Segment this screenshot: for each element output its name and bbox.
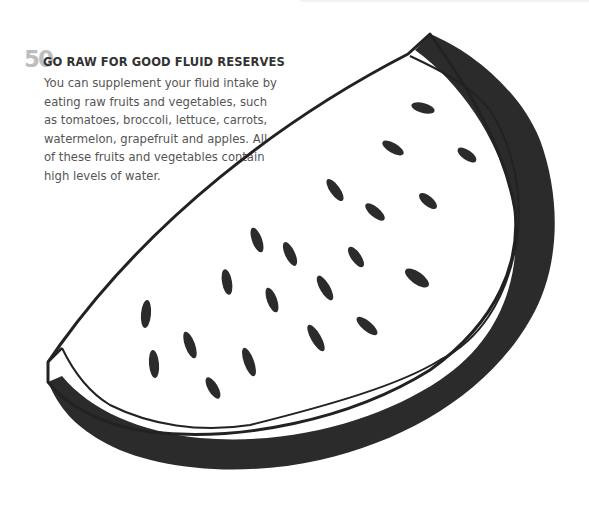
seed (280, 240, 300, 268)
seed (455, 145, 479, 166)
seed (354, 314, 380, 338)
seed (304, 323, 328, 354)
seed (239, 346, 259, 378)
watermelon-illustration (0, 0, 589, 515)
watermelon-flesh-outline (62, 56, 519, 428)
seed (410, 100, 436, 116)
seed (181, 330, 200, 360)
seed (148, 350, 160, 379)
seed (263, 286, 281, 314)
watermelon-outer-outline (48, 34, 516, 434)
seed (345, 244, 367, 269)
seed (140, 300, 152, 329)
watermelon-rind (48, 34, 555, 470)
seed (363, 200, 388, 223)
seed (402, 265, 432, 291)
seed (248, 226, 266, 254)
watermelon-seeds (140, 100, 479, 401)
seed (323, 176, 346, 203)
seed (380, 138, 406, 159)
seed (203, 375, 224, 401)
seed (314, 273, 337, 302)
seed (416, 190, 439, 212)
seed (220, 268, 234, 295)
